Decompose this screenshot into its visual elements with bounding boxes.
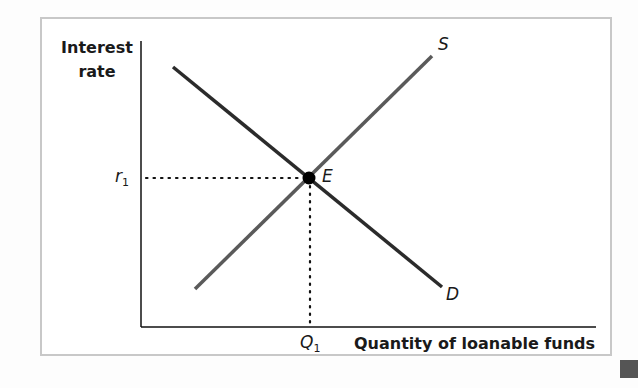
- q1-base: Q: [300, 332, 313, 352]
- equilibrium-point: [303, 172, 316, 185]
- r1-sub: 1: [122, 176, 129, 189]
- q1-tick-label: Q1: [300, 332, 320, 355]
- r1-tick-label: r1: [115, 166, 129, 189]
- x-axis-label: Quantity of loanable funds: [354, 334, 595, 353]
- supply-label: S: [438, 34, 449, 54]
- r1-base: r: [115, 166, 122, 186]
- demand-label: D: [446, 284, 459, 304]
- equilibrium-label: E: [322, 166, 333, 186]
- y-axis-label: Interest rate: [56, 36, 138, 84]
- q1-sub: 1: [313, 342, 320, 355]
- supply-curve: [195, 56, 432, 289]
